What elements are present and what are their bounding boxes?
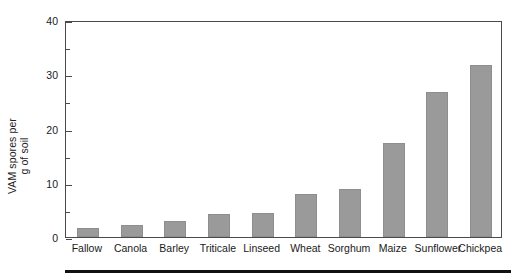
y-tick-label: 10 <box>32 179 58 190</box>
y-tick-label: 40 <box>32 16 58 27</box>
plot-area <box>65 21 502 238</box>
bar <box>252 213 274 237</box>
x-tick-label: Maize <box>371 242 415 254</box>
y-axis-title-line-1: VAM spores per <box>6 96 18 216</box>
bars-layer <box>66 22 501 237</box>
x-tick-label: Barley <box>152 242 196 254</box>
y-tick-label: 30 <box>32 70 58 81</box>
bar <box>121 225 143 237</box>
bottom-rule <box>65 270 511 273</box>
bar <box>164 221 186 237</box>
bar <box>426 92 448 237</box>
y-tick-label: 0 <box>32 233 58 244</box>
bar <box>208 214 230 237</box>
y-axis-title-line-2: g of soil <box>18 96 30 216</box>
x-tick-label: Linseed <box>240 242 284 254</box>
bar <box>295 194 317 237</box>
bar <box>339 189 361 237</box>
bar <box>470 65 492 237</box>
y-axis-title: VAM spores per g of soil <box>6 96 30 216</box>
x-tick-label: Triticale <box>196 242 240 254</box>
x-tick-label: Canola <box>109 242 153 254</box>
y-axis-tick-labels: 010203040 <box>30 0 58 280</box>
bar <box>77 228 99 237</box>
y-tick-label: 20 <box>32 125 58 136</box>
y-tick-major <box>66 239 72 240</box>
x-tick-label: Sorghum <box>327 242 371 254</box>
x-tick-label: Chickpea <box>458 242 502 254</box>
x-tick-label: Fallow <box>65 242 109 254</box>
x-tick-label: Wheat <box>284 242 328 254</box>
bar-chart-figure: VAM spores per g of soil 010203040 Fallo… <box>0 0 528 280</box>
x-tick-label: Sunflower <box>415 242 459 254</box>
bar <box>383 143 405 237</box>
x-axis-category-labels: FallowCanolaBarleyTriticaleLinseedWheatS… <box>65 242 502 258</box>
